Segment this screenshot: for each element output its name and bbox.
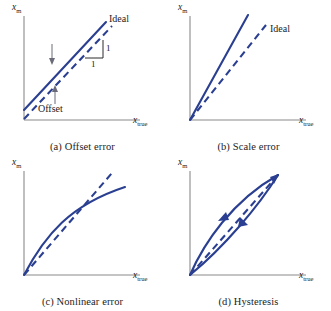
panel-nonlinear-error: xm xtrue (c) Nonlinear error — [0, 155, 165, 310]
ideal-line-dashed — [190, 25, 266, 120]
x-axis-subscript: true — [137, 120, 147, 127]
offset-arrow-upper-head — [49, 58, 55, 65]
panel-a-caption: (a) Offset error — [0, 141, 165, 152]
ideal-label: Ideal — [270, 24, 290, 34]
measured-curve-nonlinear — [24, 187, 125, 275]
y-axis-label: xm — [178, 158, 187, 168]
loop-decreasing-branch — [190, 175, 278, 275]
x-axis-label: xtrue — [133, 271, 147, 281]
x-axis-label: xtrue — [133, 116, 147, 126]
panel-d-plot — [166, 155, 331, 310]
ideal-line-dashed — [24, 173, 112, 275]
ideal-label: Ideal — [109, 14, 129, 24]
y-axis-label: xm — [12, 3, 21, 13]
panel-offset-error: xm xtrue Ideal Offset 1 1 (a) Offset err… — [0, 0, 165, 155]
panel-b-caption: (b) Scale error — [166, 141, 331, 152]
slope-run-label: 1 — [91, 60, 96, 69]
slope-rise-label: 1 — [106, 44, 111, 53]
panel-hysteresis: xm xtrue (d) Hysteresis — [166, 155, 331, 310]
panel-a-plot — [0, 0, 165, 155]
offset-label: Offset — [38, 104, 63, 114]
offset-arrow-lower-head — [52, 85, 58, 92]
panel-scale-error: xm xtrue Ideal (b) Scale error — [166, 0, 331, 155]
panel-c-plot — [0, 155, 165, 310]
arrow-increasing-up — [218, 212, 229, 221]
ideal-line-dashed — [190, 175, 278, 275]
y-axis-subscript: m — [16, 162, 21, 169]
x-axis-label: xtrue — [299, 271, 313, 281]
y-axis-subscript: m — [16, 7, 21, 14]
y-axis-subscript: m — [182, 162, 187, 169]
panel-d-caption: (d) Hysteresis — [166, 296, 331, 307]
y-axis-label: xm — [12, 158, 21, 168]
arrow-loop-tip — [270, 174, 279, 184]
x-axis-subscript: true — [303, 120, 313, 127]
loop-increasing-branch — [190, 175, 278, 275]
x-axis-label: xtrue — [299, 116, 313, 126]
y-axis-label: xm — [178, 3, 187, 13]
panel-c-caption: (c) Nonlinear error — [0, 296, 165, 307]
y-axis-subscript: m — [182, 7, 187, 14]
x-axis-subscript: true — [303, 275, 313, 282]
figure-sensor-error-characteristics: xm xtrue Ideal Offset 1 1 (a) Offset err… — [0, 0, 331, 311]
panel-b-plot — [166, 0, 331, 155]
measured-line-scale — [190, 15, 248, 120]
x-axis-subscript: true — [137, 275, 147, 282]
